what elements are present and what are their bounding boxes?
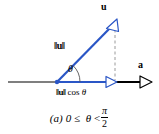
caption-fraction: π2 xyxy=(101,106,108,129)
caption-fraction-numerator: π xyxy=(101,106,108,118)
vector-projection-figure: ‖u‖ θ u a ‖u‖ cos θ (a)0 ≤ θ <π2 xyxy=(0,0,159,134)
angle-theta-label: θ xyxy=(68,64,73,74)
vector-u-shaft xyxy=(57,26,112,82)
projection-cos: cos xyxy=(68,87,80,97)
vector-a-label: a xyxy=(138,60,143,70)
origin-point xyxy=(55,80,59,84)
projection-arrowhead xyxy=(106,77,117,88)
projection-theta: θ xyxy=(82,87,86,97)
magnitude-u-bar-right: ‖ xyxy=(62,40,65,51)
caption-tag: (a) xyxy=(50,112,63,124)
vector-a-arrowhead xyxy=(140,76,152,88)
angle-arc xyxy=(73,66,80,83)
projection-length-label: ‖u‖ cos θ xyxy=(56,88,86,97)
figure-caption: (a)0 ≤ θ <π2 xyxy=(0,106,159,129)
caption-fraction-denominator: 2 xyxy=(101,118,108,129)
vector-u-label: u xyxy=(101,2,107,12)
caption-relation-right: < xyxy=(94,112,100,124)
caption-space-1 xyxy=(80,112,83,124)
magnitude-u-label: ‖u‖ xyxy=(54,41,65,51)
